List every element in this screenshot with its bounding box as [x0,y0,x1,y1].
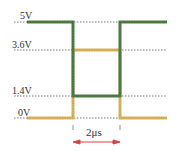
reference-lines [14,22,167,118]
green-signal [27,22,167,96]
yellow-signal [27,50,167,118]
interval-arrow-icon [73,140,120,144]
waveform-canvas [0,0,176,151]
